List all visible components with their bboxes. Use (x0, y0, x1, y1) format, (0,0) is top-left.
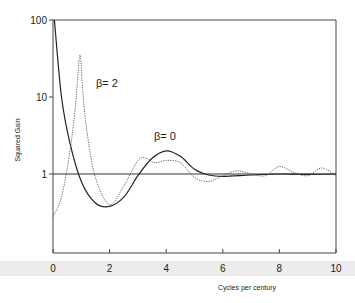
annotation-beta-2: β= 2 (96, 77, 118, 89)
y-tick-label: 10 (36, 92, 48, 103)
annotation-beta-0: β= 0 (154, 130, 176, 142)
series-beta-0-line (54, 20, 336, 207)
x-tick-label: 8 (277, 263, 283, 274)
x-tick-label: 6 (220, 263, 226, 274)
x-tick-label: 0 (50, 263, 56, 274)
x-tick-label: 2 (107, 263, 113, 274)
y-axis-label: Squared Gain (14, 118, 22, 161)
y-ticks: 110100 (30, 15, 53, 180)
y-tick-label: 100 (30, 15, 47, 26)
x-tick-label: 10 (330, 263, 342, 274)
squared-gain-chart: 110100 0246810 β= 2 β= 0 Squared Gain Cy… (0, 0, 355, 303)
x-tick-label: 4 (163, 263, 169, 274)
y-tick-label: 1 (41, 169, 47, 180)
x-axis-label: Cycles per century (218, 284, 276, 292)
